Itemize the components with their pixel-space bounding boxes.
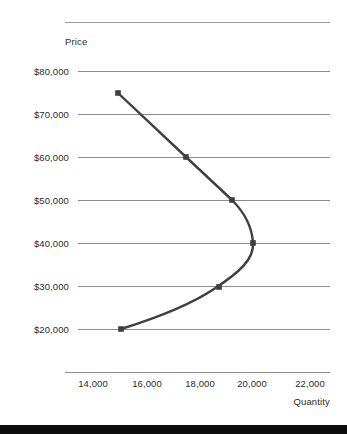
x-tick-label-14000: 14,000 [63,378,123,389]
x-tick-label-20000: 20,000 [222,378,282,389]
plot-area [0,0,347,434]
x-tick-label-18000: 18,000 [170,378,230,389]
chart-container: Price $80,000 $70,000 $60,000 $50,000 $4… [0,0,347,434]
data-point-marker-30000 [216,284,222,290]
x-tick-label-16000: 16,000 [117,378,177,389]
x-axis-title: Quantity [240,396,330,407]
data-point-marker-40000 [250,240,256,246]
data-point-marker-50000 [229,197,235,203]
footer-bar [0,425,347,434]
data-point-marker-75000 [115,90,121,96]
data-point-marker-60000 [183,154,189,160]
supply-curve-line [118,93,253,329]
x-tick-label-22000: 22,000 [280,378,340,389]
x-axis-line [65,372,330,373]
data-point-marker-20000 [118,326,124,332]
